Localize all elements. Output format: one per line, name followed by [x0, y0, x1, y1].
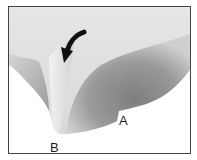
specimen-illustration	[9, 7, 191, 154]
figure-frame: A B	[8, 6, 191, 154]
label-b: B	[50, 141, 59, 154]
label-a: A	[119, 114, 128, 127]
